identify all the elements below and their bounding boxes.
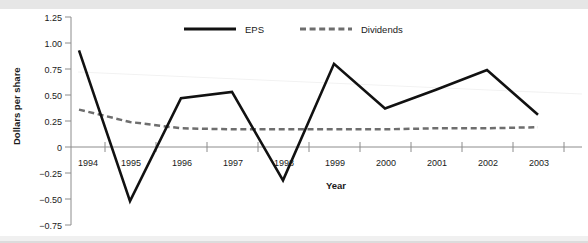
x-tick-label-1999: 1999	[325, 158, 345, 168]
x-tick-label-2001: 2001	[427, 158, 447, 168]
x-tick-label-2000: 2000	[376, 158, 396, 168]
y-tick-label-0-75: 0.75	[44, 65, 62, 75]
y-tick-label-0: 0	[57, 143, 62, 153]
y-tick-label-0-25: 0.25	[44, 117, 62, 127]
x-tick-label-1996: 1996	[172, 158, 192, 168]
line-chart: 1.25 1.00 0.75 0.50 0.25 0 −0.25 −0.50 −…	[0, 0, 588, 243]
x-tick-label-2002: 2002	[478, 158, 498, 168]
y-tick-label-1-25: 1.25	[44, 13, 62, 23]
y-tick-label-neg-0-75: −0.75	[39, 221, 62, 231]
legend-label-eps: EPS	[245, 24, 264, 35]
x-tick-label-1997: 1997	[223, 158, 243, 168]
y-tick-marks	[65, 17, 71, 225]
x-axis-title: Year	[326, 180, 346, 191]
chart-figure: 1.25 1.00 0.75 0.50 0.25 0 −0.25 −0.50 −…	[0, 0, 588, 243]
legend: EPS Dividends	[184, 24, 403, 35]
y-tick-label-1-00: 1.00	[44, 39, 62, 49]
legend-label-dividends: Dividends	[361, 24, 403, 35]
x-tick-label-2003: 2003	[529, 158, 549, 168]
x-tick-label-1995: 1995	[121, 158, 141, 168]
y-tick-label-neg-0-50: −0.50	[39, 195, 62, 205]
series-line-eps	[79, 50, 538, 201]
y-axis-title: Dollars per share	[11, 67, 22, 145]
y-tick-label-0-50: 0.50	[44, 91, 62, 101]
x-tick-label-1994: 1994	[78, 158, 98, 168]
y-tick-label-neg-0-25: −0.25	[39, 169, 62, 179]
